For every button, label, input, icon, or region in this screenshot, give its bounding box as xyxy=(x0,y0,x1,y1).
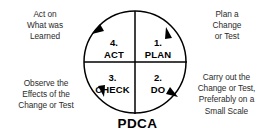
quadrant-label-check: 3. CHECK xyxy=(90,72,135,95)
pdca-diagram: Act on What was Learned Plan a Change or… xyxy=(0,0,271,137)
quadrant-number-do: 2. xyxy=(136,72,180,84)
quadrant-label-plan: 1. PLAN xyxy=(136,37,180,60)
pdca-caption: PDCA xyxy=(95,116,180,131)
quadrant-number-check: 3. xyxy=(90,72,135,84)
quadrant-number-plan: 1. xyxy=(136,37,180,49)
quadrant-word-act: ACT xyxy=(93,49,135,61)
quadrant-word-check: CHECK xyxy=(90,84,135,96)
quadrant-label-do: 2. DO xyxy=(136,72,180,95)
quadrant-label-act: 4. ACT xyxy=(93,37,135,60)
quadrant-number-act: 4. xyxy=(93,37,135,49)
quadrant-word-do: DO xyxy=(136,84,180,96)
arrowhead-upper-left xyxy=(92,24,104,34)
quadrant-word-plan: PLAN xyxy=(136,49,180,61)
